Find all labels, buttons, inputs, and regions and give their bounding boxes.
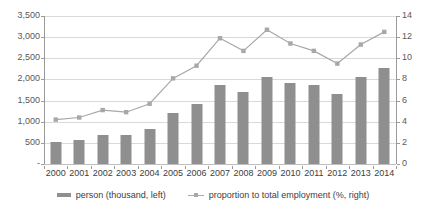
line-marker[interactable]: 2000: 4.2	[54, 117, 58, 121]
combo-chart: 2000: 4.22001: 4.42002: 5.12003: 4.92004…	[0, 0, 426, 211]
x-axis-tickmark	[396, 166, 397, 169]
right-axis-tick-label: 6	[402, 96, 407, 105]
left-axis-tick-label: 3,500	[17, 11, 40, 20]
left-axis-tickmark	[41, 58, 44, 59]
line-marker[interactable]: 2009: 12.7	[265, 28, 269, 32]
x-axis-tick-label: 2004	[138, 168, 161, 178]
line-marker[interactable]: 2014: 12.5	[382, 30, 386, 34]
left-axis-tick-label: 2,000	[17, 74, 40, 83]
line-marker[interactable]: 2012: 9.5	[335, 61, 339, 65]
right-axis-tickmark	[397, 101, 400, 102]
left-axis-tickmark	[41, 37, 44, 38]
x-axis-tickmark	[138, 166, 139, 169]
x-axis-tick-label: 2013	[349, 168, 372, 178]
x-axis-tick-label: 2007	[208, 168, 231, 178]
right-axis-line	[396, 16, 397, 164]
right-axis-tickmark	[397, 143, 400, 144]
x-axis-tick-label: 2000	[44, 168, 67, 178]
left-axis-tick-label: 2,500	[17, 53, 40, 62]
left-axis-tick-label: 1,000	[17, 117, 40, 126]
right-axis-tick-label: 8	[402, 74, 407, 83]
x-axis-tick-label: 2010	[279, 168, 302, 178]
line-marker[interactable]: 2004: 5.7	[147, 102, 151, 106]
legend-item-person[interactable]: person (thousand, left)	[57, 190, 166, 200]
x-axis-tick-label: 2005	[161, 168, 184, 178]
x-axis-tickmark	[302, 166, 303, 169]
x-axis-tickmark	[232, 166, 233, 169]
x-axis-tick-label: 2011	[302, 168, 325, 178]
line-marker-swatch-icon	[188, 192, 204, 199]
x-axis-ticks: 2000200120022003200420052006200720082009…	[44, 166, 396, 182]
line-marker[interactable]: 2002: 5.1	[100, 108, 104, 112]
plot-area: 2000: 4.22001: 4.42002: 5.12003: 4.92004…	[44, 16, 396, 164]
x-axis-tickmark	[161, 166, 162, 169]
x-axis-tick-label: 2008	[232, 168, 255, 178]
x-axis-tick-label: 2002	[91, 168, 114, 178]
right-axis-tickmark	[397, 164, 400, 165]
right-axis-tickmark	[397, 37, 400, 38]
x-axis-tickmark	[185, 166, 186, 169]
x-axis-tickmark	[279, 166, 280, 169]
left-axis-tickmark	[41, 79, 44, 80]
x-axis-tick-label: 2012	[326, 168, 349, 178]
chart-legend: person (thousand, left) proportion to to…	[0, 186, 426, 204]
right-axis-tick-label: 4	[402, 117, 407, 126]
right-axis-tick-label: 12	[402, 32, 412, 41]
left-axis-tickmark	[41, 122, 44, 123]
right-axis-tickmark	[397, 58, 400, 59]
line-marker[interactable]: 2001: 4.4	[77, 115, 81, 119]
x-axis-tick-label: 2014	[373, 168, 396, 178]
bar-swatch-icon	[57, 193, 71, 197]
left-axis-tickmark	[41, 143, 44, 144]
right-axis-tick-label: 10	[402, 53, 412, 62]
left-axis-tick-label: -	[37, 159, 40, 168]
proportion-line-svg: 2000: 4.22001: 4.42002: 5.12003: 4.92004…	[44, 16, 396, 164]
x-axis-tickmark	[349, 166, 350, 169]
line-series: 2000: 4.22001: 4.42002: 5.12003: 4.92004…	[44, 16, 396, 164]
legend-label-person: person (thousand, left)	[76, 190, 166, 200]
line-marker[interactable]: 2006: 9.3	[194, 63, 198, 67]
x-axis-tick-label: 2001	[67, 168, 90, 178]
x-axis-tick-label: 2006	[185, 168, 208, 178]
x-axis-tick-label: 2009	[255, 168, 278, 178]
left-axis-tick-label: 1,500	[17, 96, 40, 105]
x-axis-tick-label: 2003	[114, 168, 137, 178]
proportion-line-path	[56, 30, 385, 120]
x-axis-tickmark	[373, 166, 374, 169]
right-axis-tick-label: 2	[402, 138, 407, 147]
line-marker[interactable]: 2005: 8.1	[171, 76, 175, 80]
line-marker[interactable]: 2013: 11.3	[359, 42, 363, 46]
x-axis-tickmark	[67, 166, 68, 169]
left-axis-tickmark	[41, 164, 44, 165]
right-axis-tick-label: 0	[402, 159, 407, 168]
line-marker[interactable]: 2008: 10.7	[241, 49, 245, 53]
x-axis-tickmark	[91, 166, 92, 169]
x-axis-tickmark	[326, 166, 327, 169]
left-axis-tickmark	[41, 101, 44, 102]
x-axis-tickmark	[114, 166, 115, 169]
right-axis-tickmark	[397, 122, 400, 123]
line-marker[interactable]: 2007: 11.9	[218, 36, 222, 40]
line-marker[interactable]: 2011: 10.7	[312, 49, 316, 53]
gridline	[44, 164, 396, 165]
right-axis-tickmark	[397, 79, 400, 80]
line-marker[interactable]: 2010: 11.4	[288, 41, 292, 45]
left-axis-tick-label: 500	[25, 138, 40, 147]
right-axis-tick-label: 14	[402, 11, 412, 20]
left-axis-tick-label: 3,000	[17, 32, 40, 41]
right-axis-tickmark	[397, 16, 400, 17]
x-axis-tickmark	[208, 166, 209, 169]
left-axis-tickmark	[41, 16, 44, 17]
x-axis-tickmark	[255, 166, 256, 169]
x-axis-tickmark	[44, 166, 45, 169]
legend-label-proportion: proportion to total employment (%, right…	[209, 190, 370, 200]
legend-item-proportion[interactable]: proportion to total employment (%, right…	[188, 190, 370, 200]
left-axis-line	[44, 16, 45, 164]
line-marker[interactable]: 2003: 4.9	[124, 110, 128, 114]
